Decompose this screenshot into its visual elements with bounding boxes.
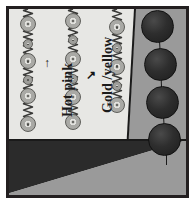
- dark-sphere: [144, 48, 177, 81]
- arrow-up-icon: ↑: [44, 57, 50, 69]
- label-hot-pink: Hot pink: [60, 63, 76, 117]
- dark-sphere: [148, 123, 181, 156]
- figure-canvas: Hot pink ↑ Gold /yellow ↗: [9, 9, 186, 195]
- dark-sphere-column: [9, 9, 186, 195]
- arrow-upright-icon: ↗: [86, 69, 96, 81]
- dark-sphere: [146, 86, 179, 119]
- figure-frame: Hot pink ↑ Gold /yellow ↗: [6, 6, 189, 198]
- dark-sphere: [141, 10, 174, 43]
- figure-root: Hot pink ↑ Gold /yellow ↗: [0, 0, 195, 207]
- label-gold-yellow: Gold /yellow: [100, 37, 116, 113]
